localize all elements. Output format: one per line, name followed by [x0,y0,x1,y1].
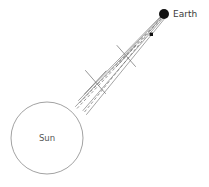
probe-marker-icon [150,33,153,36]
dashed-ray-a [80,16,165,104]
light-beam-dashed-rays [77,15,164,112]
beam-edge-mid-upper [76,16,163,107]
beam-edge-lower [87,18,166,115]
earth-label: Earth [173,9,197,19]
light-beam-outer-edges [76,15,166,115]
earth-marker-icon [159,9,169,19]
diagram-canvas: Sun Earth [0,0,209,187]
beam-edge-mid-lower [83,17,165,111]
sun-label: Sun [39,133,55,143]
sun-earth-light-beam-diagram: Sun Earth [0,0,209,187]
beam-edge-upper [79,15,163,101]
